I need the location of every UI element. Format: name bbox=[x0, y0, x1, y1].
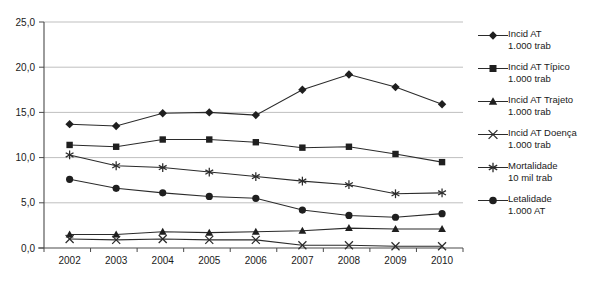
legend-item-label: Incid AT Típico bbox=[508, 61, 570, 72]
marker-circle bbox=[299, 206, 306, 213]
x-axis-tick-label: 2005 bbox=[198, 255, 221, 266]
legend-marker-asterisk-icon bbox=[478, 161, 508, 174]
y-axis-tick-label: 5,0 bbox=[21, 197, 35, 208]
legend-item-label: Incid AT Trajeto bbox=[508, 94, 573, 105]
legend-item-text: Mortalidade10 mil trab bbox=[508, 160, 558, 183]
marker-diamond bbox=[205, 108, 213, 116]
x-axis-tick-label: 2007 bbox=[291, 255, 314, 266]
marker-diamond bbox=[112, 122, 120, 130]
chart-legend: Incid AT1.000 trabIncid AT Típico1.000 t… bbox=[478, 28, 612, 226]
y-axis-tick-label: 15,0 bbox=[16, 107, 36, 118]
plot-area: 0,05,010,015,020,025,0200220032004200520… bbox=[0, 0, 470, 281]
marker-square bbox=[392, 151, 398, 157]
marker-square bbox=[439, 159, 445, 165]
figure-caption bbox=[2, 272, 610, 281]
y-axis-tick-label: 0,0 bbox=[21, 243, 35, 254]
legend-marker-x-icon bbox=[478, 128, 508, 141]
x-axis-tick-label: 2010 bbox=[431, 255, 454, 266]
x-axis-tick-label: 2008 bbox=[338, 255, 361, 266]
y-axis-tick-label: 10,0 bbox=[16, 152, 36, 163]
legend-item-label: Incid AT Doença bbox=[508, 127, 577, 138]
legend-item-text: Incid AT Trajeto1.000 trab bbox=[508, 94, 573, 117]
legend-item[interactable]: Incid AT Doença1.000 trab bbox=[478, 127, 612, 150]
legend-marker-circle-icon bbox=[478, 194, 508, 207]
legend-marker-diamond-icon bbox=[478, 29, 508, 42]
line-chart-svg: 0,05,010,015,020,025,0200220032004200520… bbox=[0, 0, 470, 281]
legend-item[interactable]: Incid AT1.000 trab bbox=[478, 28, 612, 51]
legend-marker-square-icon bbox=[478, 62, 508, 75]
x-axis-tick-label: 2002 bbox=[58, 255, 81, 266]
marker-diamond bbox=[345, 70, 353, 78]
legend-item-sublabel: 10 mil trab bbox=[508, 172, 558, 184]
marker-circle bbox=[159, 189, 166, 196]
marker-circle bbox=[438, 210, 445, 217]
y-axis-tick-label: 20,0 bbox=[16, 62, 36, 73]
legend-item-label: Letalidade bbox=[508, 193, 552, 204]
marker-triangle bbox=[159, 228, 167, 235]
x-axis-tick-label: 2003 bbox=[105, 255, 128, 266]
legend-item-sublabel: 1.000 trab bbox=[508, 106, 573, 118]
legend-item-sublabel: 1.000 AT bbox=[508, 205, 552, 217]
marker-circle bbox=[252, 195, 259, 202]
legend-item-sublabel: 1.000 trab bbox=[508, 139, 577, 151]
marker-square bbox=[346, 144, 352, 150]
marker-square bbox=[66, 142, 72, 148]
x-axis-tick-label: 2006 bbox=[245, 255, 268, 266]
marker-diamond bbox=[391, 83, 399, 91]
legend-marker-triangle-icon bbox=[478, 95, 508, 108]
marker-square bbox=[206, 136, 212, 142]
marker-diamond bbox=[65, 120, 73, 128]
marker-diamond bbox=[159, 109, 167, 117]
legend-item[interactable]: Incid AT Trajeto1.000 trab bbox=[478, 94, 612, 117]
x-axis-tick-label: 2009 bbox=[384, 255, 407, 266]
legend-item-sublabel: 1.000 trab bbox=[508, 73, 570, 85]
marker-square bbox=[299, 144, 305, 150]
legend-item-sublabel: 1.000 trab bbox=[508, 40, 551, 52]
marker-circle bbox=[113, 185, 120, 192]
legend-item[interactable]: Incid AT Típico1.000 trab bbox=[478, 61, 612, 84]
legend-item[interactable]: Mortalidade10 mil trab bbox=[478, 160, 612, 183]
marker-triangle bbox=[345, 224, 353, 231]
legend-item-text: Incid AT1.000 trab bbox=[508, 28, 551, 51]
marker-diamond bbox=[438, 100, 446, 108]
chart-figure: 0,05,010,015,020,025,0200220032004200520… bbox=[0, 0, 612, 281]
marker-square bbox=[160, 136, 166, 142]
y-axis-tick-label: 25,0 bbox=[16, 17, 36, 28]
marker-circle bbox=[345, 212, 352, 219]
legend-item-text: Letalidade1.000 AT bbox=[508, 193, 552, 216]
marker-circle bbox=[392, 214, 399, 221]
marker-square bbox=[253, 139, 259, 145]
legend-item[interactable]: Letalidade1.000 AT bbox=[478, 193, 612, 216]
marker-circle bbox=[66, 176, 73, 183]
marker-square bbox=[113, 144, 119, 150]
x-axis-tick-label: 2004 bbox=[152, 255, 175, 266]
legend-item-text: Incid AT Típico1.000 trab bbox=[508, 61, 570, 84]
marker-circle bbox=[206, 193, 213, 200]
legend-item-label: Incid AT bbox=[508, 28, 542, 39]
legend-item-text: Incid AT Doença1.000 trab bbox=[508, 127, 577, 150]
legend-item-label: Mortalidade bbox=[508, 160, 558, 171]
marker-diamond bbox=[298, 86, 306, 94]
